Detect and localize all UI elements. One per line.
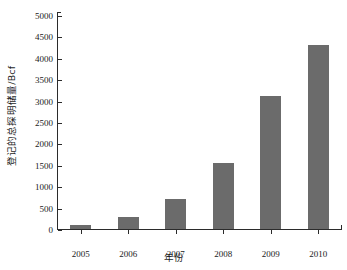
y-axis-tick-label: 2000 (35, 140, 53, 149)
y-axis-tick (58, 59, 62, 60)
x-axis-tick (81, 230, 82, 234)
y-axis-title: 登记的总探明储量/Bcf (2, 0, 20, 232)
y-axis-tick (58, 123, 62, 124)
bar-2010 (308, 45, 329, 229)
y-axis-tick-label: 4000 (35, 54, 53, 63)
bar-2008 (213, 163, 234, 229)
x-axis-tick (271, 230, 272, 234)
y-axis-top-cap-tick (58, 12, 61, 13)
bar-2006 (118, 217, 139, 229)
y-axis-tick-label: 5000 (35, 12, 53, 21)
y-axis-tick (58, 230, 62, 231)
y-axis-tick-label: 1000 (35, 183, 53, 192)
y-axis-tick-label: 4500 (35, 33, 53, 42)
x-axis-title-text: 年份 (164, 252, 184, 263)
y-axis-tick (58, 80, 62, 81)
bar-chart-figure: 登记的总探明储量/Bcf 050010001500200025003000350… (0, 0, 347, 270)
x-axis-line (57, 229, 342, 230)
y-axis-tick (58, 102, 62, 103)
y-axis-tick (58, 37, 62, 38)
y-axis-tick-label: 1500 (35, 161, 53, 170)
y-axis-tick (58, 187, 62, 188)
y-axis-tick-label: 2500 (35, 119, 53, 128)
plot-area: 0500100015002000250030003500400045005000… (57, 16, 342, 230)
x-axis-tick (223, 230, 224, 234)
x-axis-tick (318, 230, 319, 234)
y-axis-tick (58, 16, 62, 17)
y-axis-tick-label: 3000 (35, 97, 53, 106)
x-axis-tick (128, 230, 129, 234)
y-axis-line (57, 12, 58, 230)
bar-2005 (70, 225, 91, 229)
y-axis-tick (58, 166, 62, 167)
y-axis-tick-label: 500 (40, 204, 54, 213)
x-axis-title: 年份 (0, 250, 347, 264)
y-axis-tick (58, 209, 62, 210)
y-axis-tick (58, 144, 62, 145)
y-axis-tick-label: 0 (49, 226, 54, 235)
x-axis-tick (176, 230, 177, 234)
x-axis-end-cap-tick (341, 225, 342, 229)
y-axis-title-text: 登记的总探明储量/Bcf (4, 66, 18, 167)
y-axis-tick-label: 3500 (35, 76, 53, 85)
bar-2007 (165, 199, 186, 229)
bar-2009 (260, 96, 281, 229)
